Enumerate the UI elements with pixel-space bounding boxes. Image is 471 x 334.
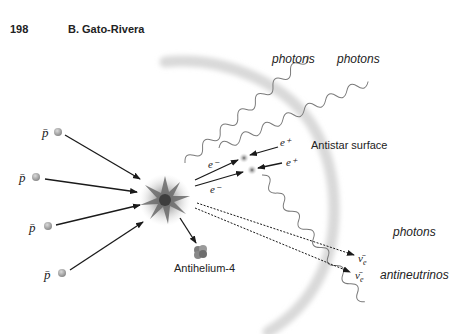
antineutrinos-label: antineutrinos xyxy=(380,268,449,282)
photons-label: photons xyxy=(336,52,380,66)
antineutrino-label: ν̄e xyxy=(355,269,364,284)
positron-label: e⁺ xyxy=(280,136,292,148)
antiproton-sphere xyxy=(54,128,62,136)
antiproton-arrow xyxy=(56,205,140,225)
positron-arrow xyxy=(250,147,278,155)
antineutrino-label: ν̄e xyxy=(358,252,367,267)
annihilation-burst-icon xyxy=(139,174,191,226)
antiproton-sphere xyxy=(44,222,52,230)
photons-label: photons xyxy=(271,52,315,66)
electron-label: e⁻ xyxy=(210,183,222,195)
antiproton-label: p̄ xyxy=(43,267,51,282)
antiproton-sphere xyxy=(58,269,66,277)
antiproton-label: p̄ xyxy=(41,125,49,140)
annihilation-point xyxy=(247,165,257,175)
photons-label: photons xyxy=(392,225,436,239)
antiproton-label: p̄ xyxy=(18,170,26,185)
positron-arrow xyxy=(258,163,282,168)
antiproton-label: p̄ xyxy=(28,220,36,235)
antiproton-arrow xyxy=(65,135,140,179)
antistar-surface-label: Antistar surface xyxy=(311,139,387,151)
positron-label: e⁺ xyxy=(286,156,298,168)
antiproton-arrow xyxy=(45,179,137,192)
antihelium-nucleus-icon xyxy=(194,245,207,259)
antiproton-group: p̄ p̄ p̄ p̄ xyxy=(18,125,143,282)
annihilation-point xyxy=(239,153,249,163)
electron-group: e⁻ e⁻ xyxy=(195,158,243,195)
antihelium-group: Antihelium-4 xyxy=(174,218,235,274)
antihelium-label: Antihelium-4 xyxy=(174,262,235,274)
electron-label: e⁻ xyxy=(208,158,220,170)
antiproton-sphere xyxy=(32,173,40,181)
positron-group: e⁺ e⁺ xyxy=(250,136,298,168)
antihelium-arrow xyxy=(180,218,196,243)
annihilation-diagram: p̄ p̄ p̄ p̄ Antihelium-4 e⁻ e⁻ xyxy=(0,0,471,334)
antiproton-arrow xyxy=(70,222,143,270)
